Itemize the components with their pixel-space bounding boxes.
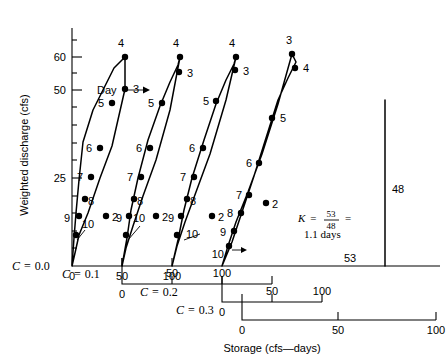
data-point <box>73 232 79 238</box>
data-point <box>209 213 215 219</box>
data-point <box>200 145 206 151</box>
x-axis-line-c03 <box>242 294 436 320</box>
y-tick-label-60: 60 <box>54 51 66 63</box>
storage-discharge-chart: 60 50 25 Weighted discharge (cfs) 0 50 1… <box>0 0 446 360</box>
day-label: 3 <box>243 65 249 77</box>
day-label: 9 <box>64 212 70 224</box>
data-point <box>246 192 252 198</box>
k-horizontal-label: 53 <box>344 252 356 264</box>
data-point <box>109 100 115 106</box>
x-tick-label-c02-100: 100 <box>313 285 331 297</box>
data-point <box>263 200 269 206</box>
loop-c03: 3 4 5 6 7 8 9 10 2 <box>212 34 309 266</box>
data-point <box>97 145 103 151</box>
day-label: 2 <box>272 198 278 210</box>
data-point <box>226 243 232 249</box>
day-label: 8 <box>190 195 196 207</box>
day-label: 10 <box>82 218 94 230</box>
c-label-00: C=0.0 <box>12 259 50 273</box>
day-label: 8 <box>227 207 233 219</box>
x-axis-title: Storage (cfs—days) <box>223 342 320 354</box>
day-label: 3 <box>187 67 193 79</box>
day-label: 10 <box>212 248 224 260</box>
day-label: 4 <box>229 37 235 49</box>
data-point <box>159 100 165 106</box>
data-point <box>122 54 128 60</box>
day-label: 4 <box>303 62 309 74</box>
day-label: 5 <box>148 97 154 109</box>
y-tick-label-50: 50 <box>54 84 66 96</box>
day-label: 9 <box>220 226 226 238</box>
data-point <box>191 174 197 180</box>
x-axis-line-c01 <box>122 258 272 284</box>
data-point <box>292 65 298 71</box>
day-label: 5 <box>98 97 104 109</box>
day-label: 3 <box>133 83 139 95</box>
y-axis-title: Weighted discharge (cfs) <box>18 94 30 215</box>
x-tick-label-c03-50: 50 <box>332 324 344 336</box>
x-tick-label-c01-50: 50 <box>166 267 178 279</box>
k-result: 1.1 days <box>304 228 341 240</box>
data-point <box>123 232 129 238</box>
data-point <box>138 174 144 180</box>
data-point <box>103 213 109 219</box>
day-arrow-label: Day <box>97 84 117 96</box>
day-label: 9 <box>168 212 174 224</box>
figure-canvas: 60 50 25 Weighted discharge (cfs) 0 50 1… <box>0 0 446 360</box>
day-label: 3 <box>286 34 292 46</box>
day-10-leader-line <box>128 226 140 240</box>
loop-path-c01 <box>122 57 180 266</box>
k-numerator: 53 <box>327 209 337 219</box>
day-label: 7 <box>236 189 242 201</box>
day-label: 7 <box>77 171 83 183</box>
x-tick-label-c03-0: 0 <box>239 324 245 336</box>
y-axis-group: 60 50 25 Weighted discharge (cfs) <box>18 28 82 266</box>
x-tick-label-c01-0: 0 <box>119 288 125 300</box>
day-label: 2 <box>218 211 224 223</box>
x-tick-label-c02-0: 0 <box>219 306 225 318</box>
k-trailing-equals: = <box>345 212 351 224</box>
data-point <box>231 228 237 234</box>
day-label: 8 <box>137 195 143 207</box>
k-construction: 48 53 K= 53 48 = 1.1 days <box>297 100 404 266</box>
x-axis-c02-group: 0 50 100 C=0.2 <box>140 276 331 318</box>
day-10-arrow-head <box>241 247 247 253</box>
data-point <box>256 160 262 166</box>
data-point <box>269 115 275 121</box>
day-label: 5 <box>203 95 209 107</box>
day-label: 8 <box>88 195 94 207</box>
data-point <box>178 213 184 219</box>
day-label: 6 <box>246 157 252 169</box>
data-point <box>153 213 159 219</box>
data-point <box>147 145 153 151</box>
day-label: 6 <box>189 142 195 154</box>
data-point <box>174 232 180 238</box>
data-point <box>176 69 182 75</box>
day-label: 4 <box>118 37 124 49</box>
k-vertical-label: 48 <box>392 183 404 195</box>
data-point <box>213 98 219 104</box>
y-tick-label-25: 25 <box>54 172 66 184</box>
c-label-03: C=0.3 <box>176 303 214 317</box>
data-point <box>177 54 183 60</box>
day-label: 9 <box>116 212 122 224</box>
data-point <box>122 86 128 92</box>
data-point <box>289 51 295 57</box>
day-label: 7 <box>127 171 133 183</box>
day-label: 10 <box>133 212 145 224</box>
day-label: 5 <box>280 112 286 124</box>
c-label-02: C=0.2 <box>140 285 178 299</box>
day-arrow-head <box>143 87 150 94</box>
data-point <box>88 174 94 180</box>
k-formula: K= <box>297 212 317 224</box>
data-point <box>232 67 238 73</box>
data-point <box>238 210 244 216</box>
data-point <box>126 213 132 219</box>
data-point <box>233 54 239 60</box>
x-axis-c03-group: 0 50 100 C=0.3 Storage (cfs—days) <box>176 294 445 354</box>
day-label: 6 <box>86 142 92 154</box>
day-label: 6 <box>136 142 142 154</box>
x-tick-label-c03-100: 100 <box>427 324 445 336</box>
day-label: 4 <box>173 37 179 49</box>
c-label-01: C=0.1 <box>62 267 100 281</box>
